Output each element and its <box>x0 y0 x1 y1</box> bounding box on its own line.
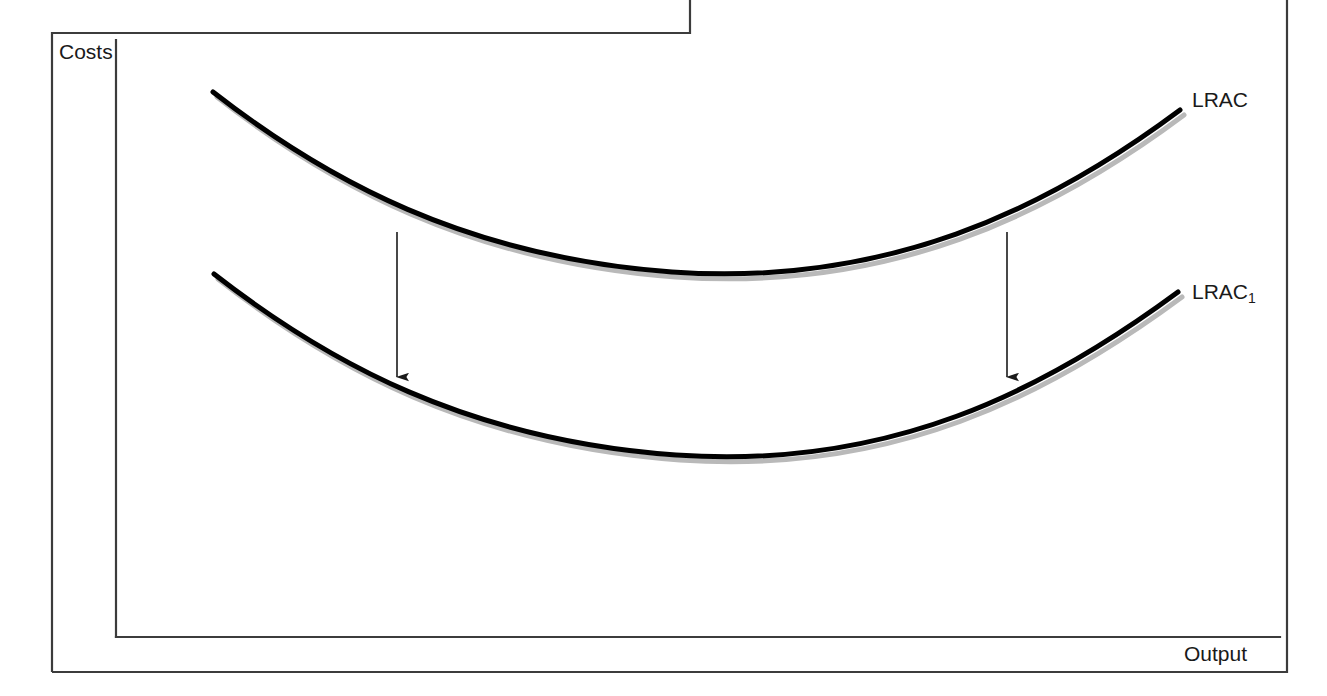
figure-canvas <box>0 0 1327 696</box>
lrac-curve-label-text: LRAC <box>1192 88 1248 111</box>
lrac-curve-label: LRAC <box>1192 89 1248 110</box>
lrac-curve <box>213 92 1180 274</box>
x-axis-label: Output <box>1184 643 1247 664</box>
outer-frame-right <box>52 0 1287 672</box>
outer-frame <box>52 0 690 672</box>
lrac1-curve <box>214 274 1178 457</box>
y-axis-label: Costs <box>59 41 113 62</box>
lrac1-curve-label: LRAC1 <box>1192 281 1256 302</box>
cost-curve-figure: Costs Output LRAC LRAC1 <box>0 0 1327 696</box>
lrac1-curve-label-text: LRAC <box>1192 280 1248 303</box>
lrac1-curve-label-subscript: 1 <box>1248 290 1256 306</box>
